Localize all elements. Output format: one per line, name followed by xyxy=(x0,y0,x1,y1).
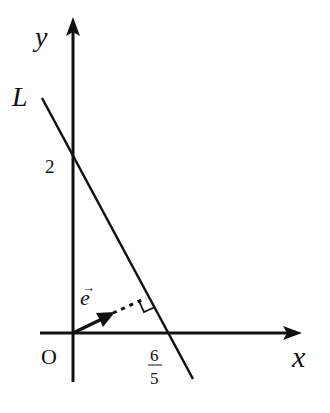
origin-label: O xyxy=(41,344,57,369)
coordinate-diagram: y L 2 O x 6 5 e → xyxy=(0,0,330,413)
fraction-denominator: 5 xyxy=(150,369,159,388)
y-axis-label: y xyxy=(32,21,48,52)
y-intercept-label: 2 xyxy=(45,156,55,177)
vector-label: e → xyxy=(80,280,95,310)
line-label: L xyxy=(11,81,28,112)
vector-e xyxy=(73,312,115,333)
fraction-numerator: 6 xyxy=(150,346,159,365)
x-axis-label: x xyxy=(291,340,306,373)
vector-arrow-symbol: → xyxy=(82,280,95,295)
x-intercept-fraction: 6 5 xyxy=(148,346,162,388)
line-L xyxy=(42,98,193,379)
y-axis xyxy=(66,17,80,382)
